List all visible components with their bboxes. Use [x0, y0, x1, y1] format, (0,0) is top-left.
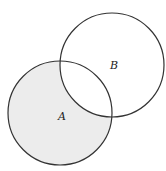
set-a-label: A — [57, 110, 66, 123]
venn-diagram: A B — [0, 0, 166, 171]
set-b-label: B — [109, 59, 118, 72]
